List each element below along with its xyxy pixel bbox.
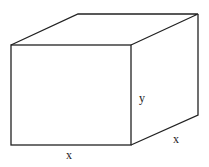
box-edges (11, 14, 198, 145)
front-face (11, 45, 131, 145)
right-face-edges (131, 14, 198, 145)
width-label: x (66, 148, 72, 162)
box-diagram: y x x (0, 0, 209, 167)
height-label: y (139, 91, 145, 105)
depth-label: x (173, 132, 179, 146)
top-face-edges (11, 14, 198, 45)
